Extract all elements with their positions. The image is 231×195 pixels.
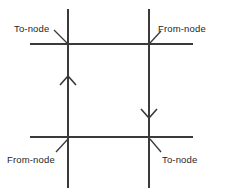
label-top-right: From-node [158,23,206,34]
label-top-left: To-node [14,23,49,34]
label-bottom-right: To-node [162,154,197,165]
leader-line-top-left [54,30,67,43]
label-bottom-left: From-node [7,154,55,165]
leader-line-bottom-right [150,139,161,152]
leader-line-bottom-left [56,139,68,152]
diagram-canvas: To-node From-node From-node To-node [0,0,231,195]
node-direction-diagram: To-node From-node From-node To-node [0,0,231,195]
